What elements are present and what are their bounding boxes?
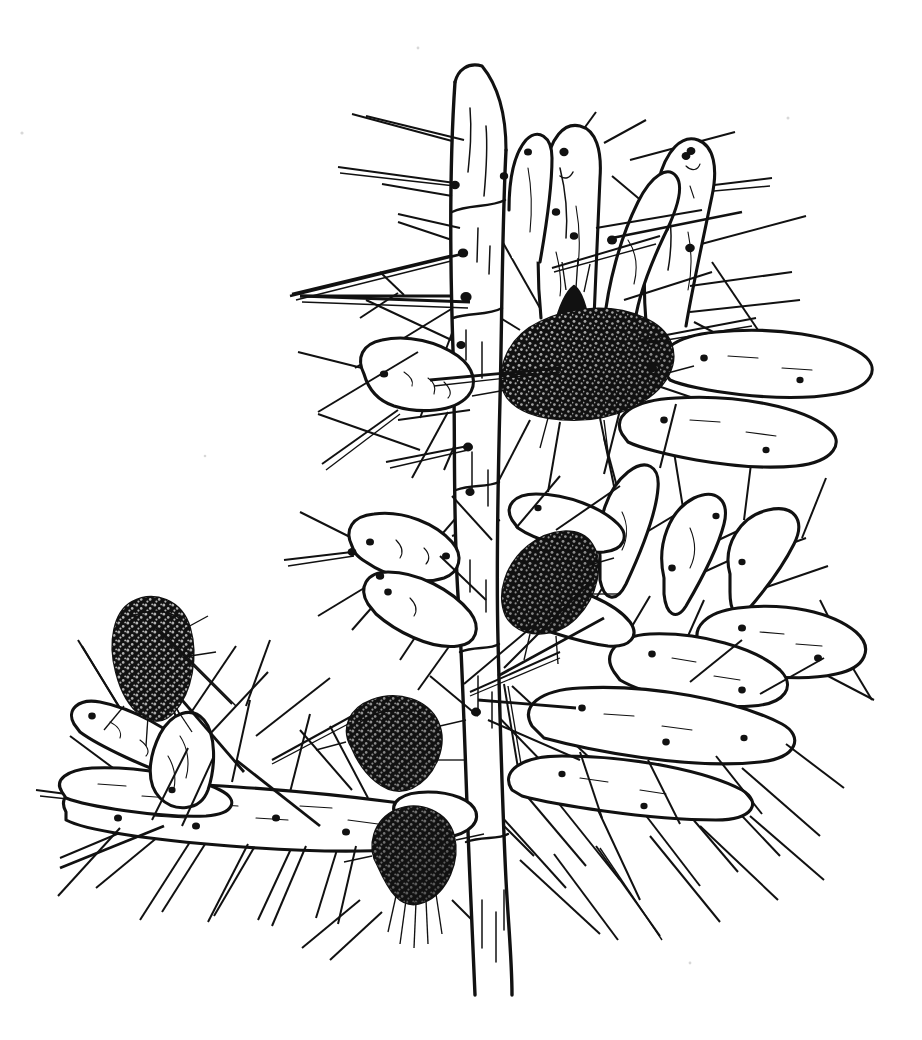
cactus-illustration: [0, 0, 922, 1040]
figure-root: [0, 0, 922, 1040]
